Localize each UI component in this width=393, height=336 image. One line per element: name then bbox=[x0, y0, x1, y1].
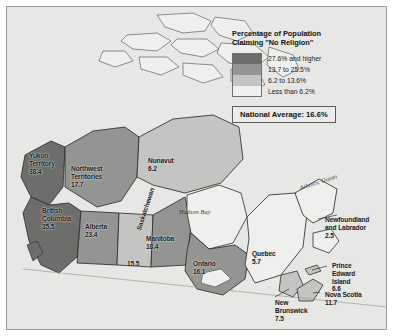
legend-row: 13.7 to 25.5% bbox=[232, 64, 384, 75]
legend-swatch-medium bbox=[232, 75, 262, 86]
label-british-columbia: British Columbia35.5 bbox=[42, 207, 71, 230]
label-ontario: Ontario16.1 bbox=[193, 260, 216, 276]
label-saskatchewan-value: 15.5 bbox=[127, 260, 139, 268]
legend-label-very-high: 27.6% and higher bbox=[268, 53, 321, 64]
label-manitoba: Manitoba18.4 bbox=[146, 235, 174, 251]
region-shape-manitoba bbox=[151, 197, 191, 267]
legend-label-high: 13.7 to 25.5% bbox=[268, 64, 310, 75]
region-shape-nunavut bbox=[137, 115, 243, 193]
label-quebec: Quebec5.7 bbox=[252, 250, 276, 266]
legend-swatch-high bbox=[232, 64, 262, 75]
legend-row: 27.6% and higher bbox=[232, 53, 384, 64]
label-hudson-bay: Hudson Bay bbox=[179, 209, 211, 215]
legend: Percentage of Population Claiming "No Re… bbox=[232, 29, 384, 97]
legend-swatch-low bbox=[232, 86, 262, 97]
legend-swatch-very-high bbox=[232, 53, 262, 64]
label-northwest-territories: Northwest Territories17.7 bbox=[71, 165, 102, 188]
legend-title: Percentage of Population Claiming "No Re… bbox=[232, 29, 384, 48]
national-average-box: National Average: 16.6% bbox=[232, 106, 336, 123]
label-prince-edward-island: Prince Edward Island6.6 bbox=[332, 262, 355, 293]
label-yukon-territory: Yukon Territory38.4 bbox=[29, 152, 55, 175]
screenshot-root: Yukon Territory38.4 Northwest Territorie… bbox=[0, 0, 393, 336]
label-new-brunswick: New Brunswick7.5 bbox=[275, 299, 307, 322]
legend-rows: 27.6% and higher 13.7 to 25.5% 6.2 to 13… bbox=[232, 53, 384, 97]
legend-row: 6.2 to 13.6% bbox=[232, 75, 384, 86]
label-nunavut: Nunavut6.2 bbox=[148, 157, 174, 173]
label-alberta: Alberta23.4 bbox=[85, 223, 107, 239]
label-nova-scotia: Nova Scotia11.7 bbox=[325, 291, 362, 307]
legend-label-medium: 6.2 to 13.6% bbox=[268, 75, 306, 86]
label-newfoundland-and-labrador: Newfoundland and Labrador2.5 bbox=[325, 216, 369, 239]
region-shape-quebec bbox=[245, 193, 307, 283]
map-plate: Yukon Territory38.4 Northwest Territorie… bbox=[6, 6, 387, 330]
region-shape-prince-edward-island bbox=[305, 265, 321, 275]
legend-row: Less than 6.2% bbox=[232, 86, 384, 97]
legend-label-low: Less than 6.2% bbox=[268, 86, 315, 97]
